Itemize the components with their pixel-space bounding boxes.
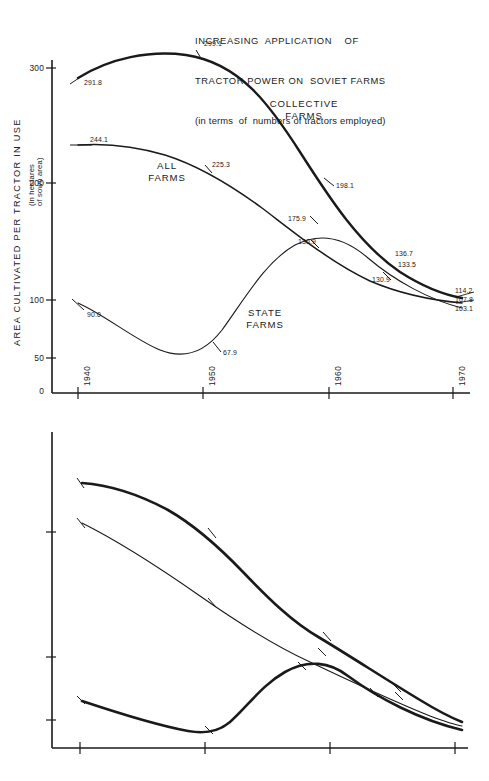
point-label-103-1: 103.1 (455, 305, 473, 312)
point-label-114-2: 114.2 (455, 287, 472, 294)
point-label-67-9: 67.9 (223, 349, 237, 356)
point-label-175-9: 175.9 (288, 215, 306, 222)
leader-291-8 (70, 76, 82, 84)
y-tick-label-0-top: 0 (20, 386, 44, 396)
leader-100-0 (318, 648, 326, 656)
point-label-130-9-b: 130.9 (372, 276, 390, 283)
series-label-state-farms-top: STATE FARMS (230, 307, 300, 330)
leader-207-3 (77, 518, 85, 528)
bottom-chart-plot (0, 400, 489, 781)
x-tick-label-1940-top: 1940 (82, 366, 92, 386)
point-label-136-7: 136.7 (395, 250, 413, 257)
point-label-90-0: 90.0 (87, 311, 101, 318)
y-tick-label-200-top: 200 (20, 178, 44, 188)
x-tick-label-1960-top: 1960 (333, 366, 343, 386)
series-label-all-farms-top: ALL FARMS (132, 160, 202, 183)
point-label-133-5: 133.5 (398, 261, 416, 268)
point-label-198-1: 198.1 (336, 182, 354, 189)
y-tick-label-50-top: 50 (20, 353, 44, 363)
chart-panel-bottom: INCREASING APPLICATION OF TRACTOR POWER … (0, 400, 489, 781)
leader-175-9 (310, 216, 318, 224)
point-label-225-3: 225.3 (212, 161, 230, 168)
y-tick-label-100-top: 100 (20, 295, 44, 305)
point-label-130-9-a: 130.9 (298, 238, 316, 245)
chart-title-line-2: TRACTOR POWER ON SOVIET FARMS (195, 74, 386, 87)
leader-71-3 (395, 692, 403, 700)
point-label-107-8: 107.8 (455, 296, 473, 303)
point-label-299-1: 299.1 (204, 40, 222, 47)
series-line-collective-farms-bottom (82, 483, 462, 722)
leader-198-1 (324, 178, 334, 186)
chart-title-line-1: INCREASING APPLICATION OF (195, 34, 386, 47)
x-tick-label-1970-top: 1970 (457, 366, 467, 386)
x-tick-label-1950-top: 1950 (207, 366, 217, 386)
series-line-state-farms-bottom (82, 664, 462, 733)
point-label-244-1: 244.1 (90, 136, 108, 143)
y-axis-title-top: AREA CULTIVATED PER TRACTOR IN USE (12, 118, 22, 346)
series-line-all-farms-bottom (82, 523, 462, 726)
leader-198-7 (208, 528, 216, 538)
chart-panel-top: INCREASING APPLICATION OF TRACTOR POWER … (0, 0, 489, 400)
leader-61-4 (77, 696, 85, 704)
y-tick-label-300-top: 300 (20, 63, 44, 73)
point-label-291-8: 291.8 (84, 79, 102, 86)
series-label-collective-farms-top: COLLECTIVE FARMS (258, 98, 350, 121)
chart-title-top: INCREASING APPLICATION OF TRACTOR POWER … (195, 8, 386, 153)
leader-67-9 (213, 342, 221, 352)
